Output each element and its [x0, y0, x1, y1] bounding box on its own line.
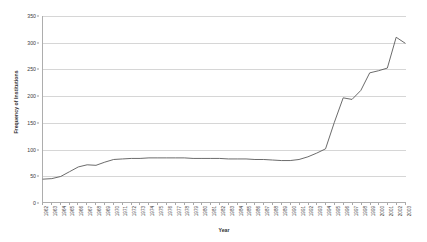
x-axis-tick-label: 1974: [150, 206, 155, 216]
y-axis-tick-label: 250: [27, 66, 36, 72]
x-axis-tick-label: 1968: [97, 206, 102, 216]
x-axis-tick-mark: [272, 203, 273, 205]
x-axis-tick-label: 1983: [230, 206, 235, 216]
x-axis-tick-label: 1967: [88, 206, 93, 216]
y-axis-tick-mark: [37, 96, 39, 97]
x-axis-tick-mark: [299, 203, 300, 205]
x-axis-tick-label: 2000: [380, 206, 385, 216]
x-axis-tick-mark: [166, 203, 167, 205]
x-axis-tick-mark: [378, 203, 379, 205]
x-axis-tick-mark: [69, 203, 70, 205]
x-axis-tick-mark: [361, 203, 362, 205]
x-axis-tick-mark: [113, 203, 114, 205]
x-axis-tick-label: 1978: [185, 206, 190, 216]
y-axis-tick-label: 50: [30, 173, 36, 179]
x-axis-tick-label: 1963: [53, 206, 58, 216]
x-axis-tick-mark: [184, 203, 185, 205]
x-axis-tick-label: 1971: [123, 206, 128, 216]
x-axis-tick-label: 1976: [168, 206, 173, 216]
x-axis-tick-label: 1964: [62, 206, 67, 216]
x-axis-tick-mark: [201, 203, 202, 205]
x-axis-tick-mark: [193, 203, 194, 205]
x-axis-tick-label: 1989: [283, 206, 288, 216]
x-axis-tick-label: 1992: [309, 206, 314, 216]
x-axis-tick-label: 1986: [256, 206, 261, 216]
y-axis-tick-label: 0: [33, 200, 36, 206]
x-axis-tick-label: 1972: [132, 206, 137, 216]
x-axis-tick-mark: [95, 203, 96, 205]
plot-area: [42, 16, 406, 203]
x-axis-tick-mark: [352, 203, 353, 205]
x-axis-tick-label: 1999: [371, 206, 376, 216]
x-axis-tick-label: 1998: [363, 206, 368, 216]
y-axis-tick-mark: [37, 176, 39, 177]
x-axis-tick-label: 1975: [159, 206, 164, 216]
x-axis-tick-mark: [148, 203, 149, 205]
y-axis-tick-label: 150: [27, 120, 36, 126]
x-axis-tick-mark: [325, 203, 326, 205]
x-axis-tick-label: 1973: [141, 206, 146, 216]
x-axis-tick-mark: [51, 203, 52, 205]
x-axis-tick-label: 1981: [212, 206, 217, 216]
x-axis-tick-mark: [246, 203, 247, 205]
x-axis-tick-mark: [263, 203, 264, 205]
x-axis-tick-mark: [42, 203, 43, 205]
x-axis-tick-label: 1988: [274, 206, 279, 216]
x-axis-tick-label: 1993: [318, 206, 323, 216]
x-axis-tick-mark: [104, 203, 105, 205]
x-axis-tick-label: 1985: [247, 206, 252, 216]
x-axis-tick-mark: [370, 203, 371, 205]
x-axis-tick-mark: [237, 203, 238, 205]
x-axis-tick-mark: [290, 203, 291, 205]
x-axis-tick-label: 1965: [70, 206, 75, 216]
x-axis-tick-mark: [387, 203, 388, 205]
y-axis-tick-label: 350: [27, 13, 36, 19]
x-axis-tick-label: 1979: [194, 206, 199, 216]
y-axis-tick-mark: [37, 149, 39, 150]
x-axis-tick-label: 1969: [106, 206, 111, 216]
x-axis-tick-label: 1984: [239, 206, 244, 216]
x-axis-tick-mark: [77, 203, 78, 205]
x-axis-tick-mark: [60, 203, 61, 205]
x-axis-tick-label: 1990: [292, 206, 297, 216]
x-axis-tick-label: 1980: [203, 206, 208, 216]
y-axis-tick-mark: [37, 16, 39, 17]
y-axis-tick-label: 200: [27, 93, 36, 99]
y-axis-tick-label: 100: [27, 147, 36, 153]
x-axis-tick-label: 1997: [354, 206, 359, 216]
series-polyline: [43, 37, 405, 179]
series-line-frequency-of-institutions: [43, 16, 406, 202]
x-axis-tick-mark: [405, 203, 406, 205]
x-axis-tick-label: 1970: [115, 206, 120, 216]
x-axis-tick-label: 1977: [177, 206, 182, 216]
x-axis-tick-label: 1995: [336, 206, 341, 216]
x-axis-tick-label: 1966: [79, 206, 84, 216]
x-axis-tick-label: 1994: [327, 206, 332, 216]
y-axis-tick-labels: 050100150200250300350: [18, 16, 39, 203]
line-chart: Frequency of Institutions 05010015020025…: [0, 0, 427, 242]
x-axis-tick-mark: [175, 203, 176, 205]
x-axis-tick-mark: [396, 203, 397, 205]
y-axis-tick-mark: [37, 42, 39, 43]
x-axis-tick-label: 1987: [265, 206, 270, 216]
x-axis-tick-mark: [308, 203, 309, 205]
y-axis-tick-label: 300: [27, 40, 36, 46]
x-axis-tick-mark: [86, 203, 87, 205]
x-axis-tick-mark: [122, 203, 123, 205]
x-axis-tick-mark: [281, 203, 282, 205]
x-axis-title: Year: [42, 227, 406, 233]
x-axis-tick-mark: [210, 203, 211, 205]
x-axis-tick-label: 1996: [345, 206, 350, 216]
x-axis-tick-label: 2003: [407, 206, 412, 216]
x-axis-tick-mark: [254, 203, 255, 205]
x-axis-tick-label: 2002: [398, 206, 403, 216]
x-axis-tick-mark: [131, 203, 132, 205]
x-axis-tick-labels: 1962196319641965196619671968196919701971…: [42, 206, 406, 228]
x-axis-tick-mark: [157, 203, 158, 205]
x-axis-tick-mark: [139, 203, 140, 205]
x-axis-tick-mark: [343, 203, 344, 205]
x-axis-tick-mark: [219, 203, 220, 205]
y-axis-tick-mark: [37, 122, 39, 123]
x-axis-tick-label: 1982: [221, 206, 226, 216]
x-axis-tick-mark: [228, 203, 229, 205]
